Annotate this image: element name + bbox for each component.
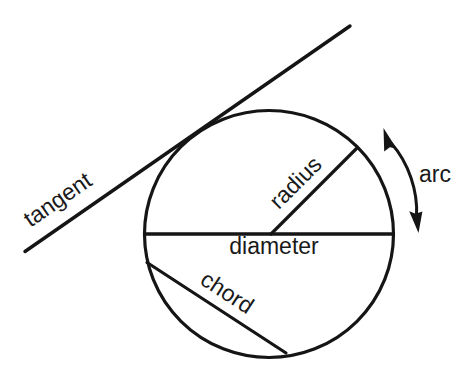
label-arc: arc (419, 161, 451, 187)
arc-arrow-head-up (384, 128, 397, 152)
label-chord: chord (196, 266, 258, 319)
tangent-line (25, 26, 350, 252)
label-radius: radius (264, 151, 327, 214)
label-diameter: diameter (229, 233, 319, 259)
arc-arrow-head-down (409, 211, 422, 233)
label-tangent: tangent (18, 167, 96, 232)
circle-parts-diagram: tangent radius diameter chord arc (0, 0, 468, 381)
arc-arrow-curve (391, 143, 417, 216)
diagram-canvas: tangent radius diameter chord arc (0, 0, 468, 381)
